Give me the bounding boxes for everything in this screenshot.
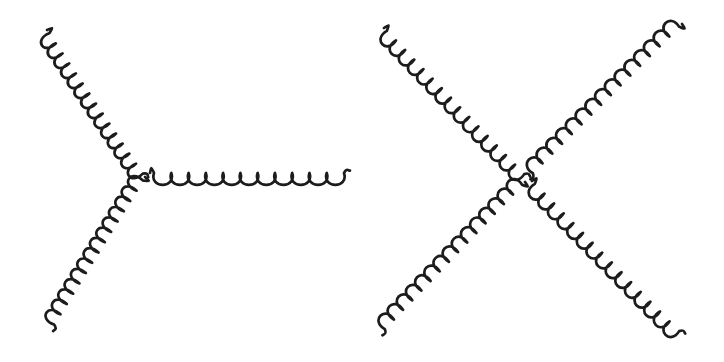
- gluon-vertex-figure: [0, 0, 724, 362]
- three-gluon-vertex-diagram: [0, 0, 362, 362]
- four-gluon-vertex-diagram: [362, 0, 724, 362]
- lower-left-gluon-leg: [379, 179, 528, 335]
- lower-left-gluon-leg: [46, 176, 149, 331]
- right-horizontal-gluon-leg: [150, 168, 350, 185]
- upper-left-gluon-leg: [381, 25, 531, 180]
- upper-left-gluon-leg: [41, 28, 148, 178]
- upper-right-gluon-leg: [527, 21, 685, 179]
- three-gluon-vertex-panel: [0, 0, 362, 362]
- four-gluon-vertex-panel: [362, 0, 724, 362]
- lower-right-gluon-leg: [529, 178, 686, 337]
